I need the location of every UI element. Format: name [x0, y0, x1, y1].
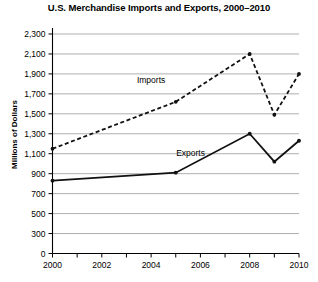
- x-axis-tick-label: 2002: [92, 260, 111, 270]
- y-axis-tick-label: 0: [41, 249, 46, 259]
- y-axis-tick-label: 500: [31, 209, 45, 219]
- data-point-exports: [272, 160, 276, 164]
- data-point-exports: [51, 179, 55, 183]
- x-axis-tick-label: 2006: [191, 260, 210, 270]
- y-axis-tick-label: 1,100: [24, 149, 46, 159]
- chart-container: U.S. Merchandise Imports and Exports, 20…: [0, 0, 318, 282]
- data-point-imports: [248, 52, 252, 56]
- x-axis-tick-label: 2000: [43, 260, 62, 270]
- y-axis-tick-label: 2,300: [24, 29, 46, 39]
- data-point-imports: [51, 147, 55, 151]
- data-point-imports: [272, 113, 276, 117]
- y-axis-tick-label: 2,100: [24, 49, 46, 59]
- y-axis-tick-label: 900: [31, 169, 45, 179]
- y-axis-tick-label: 300: [31, 229, 45, 239]
- x-axis-tick-label: 2010: [290, 260, 309, 270]
- data-point-imports: [174, 100, 178, 104]
- x-axis-tick-label: 2004: [142, 260, 161, 270]
- chart-plot-area: 03005007009001,1001,3001,5001,7001,9002,…: [0, 0, 318, 282]
- y-axis-tick-label: 1,900: [24, 69, 46, 79]
- data-point-exports: [248, 132, 252, 136]
- y-axis-tick-label: 1,300: [24, 129, 46, 139]
- data-point-exports: [297, 139, 301, 143]
- data-point-exports: [174, 171, 178, 175]
- x-axis-tick-label: 2008: [240, 260, 259, 270]
- data-point-imports: [297, 72, 301, 76]
- y-axis-tick-label: 1,700: [24, 89, 46, 99]
- series-label-exports: Exports: [176, 148, 205, 158]
- series-label-imports: Imports: [137, 75, 165, 85]
- y-axis-tick-label: 1,500: [24, 109, 46, 119]
- y-axis-tick-label: 700: [31, 189, 45, 199]
